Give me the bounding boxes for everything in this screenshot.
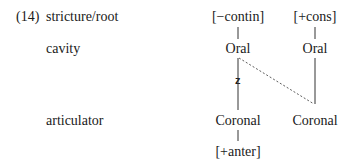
- dashed-association-line: [239, 58, 314, 104]
- tree-lines: [0, 0, 357, 161]
